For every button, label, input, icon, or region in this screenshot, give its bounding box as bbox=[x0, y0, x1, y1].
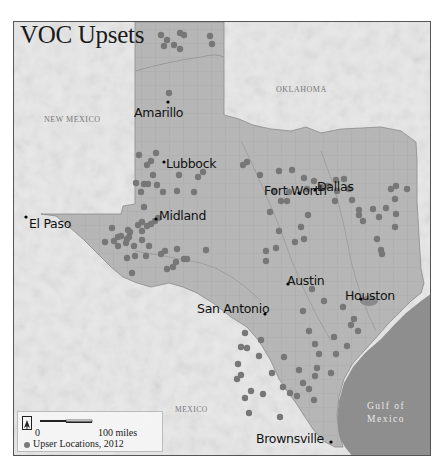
upset-point[interactable] bbox=[300, 308, 306, 314]
upset-point[interactable] bbox=[153, 150, 159, 156]
upset-point[interactable] bbox=[162, 248, 168, 254]
upset-point[interactable] bbox=[181, 32, 187, 38]
upset-point[interactable] bbox=[296, 367, 302, 373]
upset-point[interactable] bbox=[139, 237, 145, 243]
upset-point[interactable] bbox=[289, 167, 295, 173]
upset-point[interactable] bbox=[158, 32, 164, 38]
upset-point[interactable] bbox=[276, 228, 282, 234]
upset-point[interactable] bbox=[306, 328, 312, 334]
upset-point[interactable] bbox=[301, 236, 307, 242]
upset-point[interactable] bbox=[164, 266, 170, 272]
upset-point[interactable] bbox=[139, 228, 145, 234]
upset-point[interactable] bbox=[273, 245, 279, 251]
upset-point[interactable] bbox=[118, 233, 124, 239]
upset-point[interactable] bbox=[195, 174, 201, 180]
upset-point[interactable] bbox=[191, 189, 197, 195]
upset-point[interactable] bbox=[281, 354, 287, 360]
upset-point[interactable] bbox=[123, 240, 129, 246]
upset-point[interactable] bbox=[277, 414, 283, 420]
upset-point[interactable] bbox=[244, 345, 250, 351]
upset-point[interactable] bbox=[298, 224, 304, 230]
upset-point[interactable] bbox=[133, 180, 139, 186]
upset-point[interactable] bbox=[311, 397, 317, 403]
upset-point[interactable] bbox=[348, 322, 354, 328]
upset-point[interactable] bbox=[154, 182, 160, 188]
upset-point[interactable] bbox=[170, 264, 176, 270]
upset-point[interactable] bbox=[242, 330, 248, 336]
upset-point[interactable] bbox=[143, 253, 149, 259]
upset-point[interactable] bbox=[164, 37, 170, 43]
upset-point[interactable] bbox=[144, 162, 150, 168]
upset-point[interactable] bbox=[344, 343, 350, 349]
city-label-lubbock[interactable]: Lubbock bbox=[166, 156, 216, 171]
upset-point[interactable] bbox=[392, 224, 398, 230]
upset-point[interactable] bbox=[267, 209, 273, 215]
city-label-houston[interactable]: Houston bbox=[345, 288, 395, 303]
upset-point[interactable] bbox=[246, 410, 252, 416]
upset-point[interactable] bbox=[138, 189, 144, 195]
city-label-midland[interactable]: Midland bbox=[159, 208, 206, 223]
upset-point[interactable] bbox=[306, 386, 312, 392]
upset-point[interactable] bbox=[374, 236, 380, 242]
upset-point[interactable] bbox=[328, 370, 334, 376]
upset-point[interactable] bbox=[356, 212, 362, 218]
upset-point[interactable] bbox=[314, 365, 320, 371]
city-label-amarillo[interactable]: Amarillo bbox=[134, 105, 183, 120]
upset-point[interactable] bbox=[383, 205, 389, 211]
upset-point[interactable] bbox=[141, 204, 147, 210]
upset-point[interactable] bbox=[379, 251, 385, 257]
city-label-san-antonio[interactable]: San Antonio bbox=[197, 301, 269, 316]
upset-point[interactable] bbox=[235, 361, 241, 367]
upset-point[interactable] bbox=[176, 172, 182, 178]
upset-point[interactable] bbox=[294, 393, 300, 399]
upset-point[interactable] bbox=[145, 181, 151, 187]
upset-point[interactable] bbox=[388, 186, 394, 192]
upset-point[interactable] bbox=[316, 351, 322, 357]
upset-point[interactable] bbox=[263, 258, 269, 264]
upset-point[interactable] bbox=[332, 198, 338, 204]
upset-point[interactable] bbox=[392, 196, 398, 202]
upset-point[interactable] bbox=[305, 212, 311, 218]
upset-point[interactable] bbox=[276, 168, 282, 174]
upset-point[interactable] bbox=[258, 337, 264, 343]
upset-point[interactable] bbox=[349, 197, 355, 203]
upset-point[interactable] bbox=[109, 225, 115, 231]
upset-point[interactable] bbox=[248, 388, 254, 394]
upset-point[interactable] bbox=[115, 243, 121, 249]
upset-point[interactable] bbox=[312, 373, 318, 379]
upset-point[interactable] bbox=[370, 206, 376, 212]
upset-point[interactable] bbox=[284, 198, 290, 204]
upset-point[interactable] bbox=[129, 270, 135, 276]
upset-point[interactable] bbox=[132, 253, 138, 259]
upset-point[interactable] bbox=[174, 188, 180, 194]
upset-point[interactable] bbox=[355, 328, 361, 334]
upset-point[interactable] bbox=[161, 43, 167, 49]
city-label-dallas[interactable]: Dallas bbox=[317, 179, 354, 194]
upset-point[interactable] bbox=[321, 298, 327, 304]
upset-point[interactable] bbox=[280, 384, 286, 390]
city-label-brownsville[interactable]: Brownsville bbox=[256, 431, 324, 446]
upset-point[interactable] bbox=[257, 172, 263, 178]
upset-point[interactable] bbox=[340, 304, 346, 310]
texas-map[interactable] bbox=[14, 22, 431, 456]
upset-point[interactable] bbox=[111, 238, 117, 244]
upset-point[interactable] bbox=[376, 214, 382, 220]
upset-point[interactable] bbox=[269, 370, 275, 376]
city-label-el-paso[interactable]: El Paso bbox=[29, 216, 71, 231]
upset-point[interactable] bbox=[150, 172, 156, 178]
upset-point[interactable] bbox=[244, 159, 250, 165]
city-label-austin[interactable]: Austin bbox=[287, 273, 324, 288]
upset-point[interactable] bbox=[184, 256, 190, 262]
upset-point[interactable] bbox=[160, 189, 166, 195]
upset-point[interactable] bbox=[124, 255, 130, 261]
upset-point[interactable] bbox=[203, 247, 209, 253]
upset-point[interactable] bbox=[234, 376, 240, 382]
upset-point[interactable] bbox=[278, 198, 284, 204]
upset-point[interactable] bbox=[146, 243, 152, 249]
upset-point[interactable] bbox=[260, 391, 266, 397]
upset-point[interactable] bbox=[393, 211, 399, 217]
upset-point[interactable] bbox=[263, 248, 269, 254]
upset-point[interactable] bbox=[136, 152, 142, 158]
upset-point[interactable] bbox=[287, 390, 293, 396]
upset-point[interactable] bbox=[131, 243, 137, 249]
